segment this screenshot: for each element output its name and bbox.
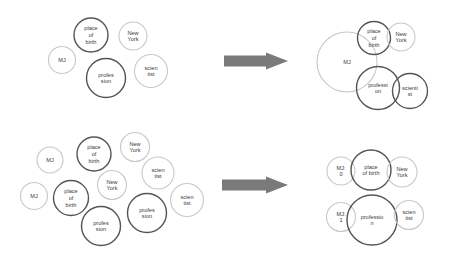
node-label: place <box>87 144 100 150</box>
node-label: place <box>367 28 380 34</box>
node-label: scien <box>144 65 157 71</box>
node-label: st <box>408 91 413 97</box>
node-label: of <box>372 35 377 41</box>
bottom-arrow-icon <box>222 177 288 194</box>
entity-merge-diagram: MJplaceofbirthNewYorkprofessionscientist… <box>0 0 452 261</box>
node-scientist-a: scientist <box>142 157 174 189</box>
diagram-canvas: MJplaceofbirthNewYorkprofessionscientist… <box>0 0 452 261</box>
node-label: of birth <box>362 170 379 176</box>
node-label: York <box>130 147 141 153</box>
node-label: of <box>69 195 74 201</box>
node-place-of-birth-a: placeofbirth <box>77 137 111 171</box>
node-label: scien <box>151 167 164 173</box>
node-label: York <box>107 185 118 191</box>
node-label: profes <box>139 207 155 213</box>
panel-bottom-right: MJ:0placeof birthNewYorkMJ:1professionsc… <box>327 150 424 245</box>
node-label: on <box>375 88 381 94</box>
node-label: 1 <box>339 217 342 223</box>
node-mj-a: MJ <box>37 147 63 173</box>
node-label: scien <box>402 209 415 215</box>
node-scientist: scientist <box>135 55 168 88</box>
node-label: of <box>89 32 94 38</box>
node-new-york: NewYork <box>119 22 147 50</box>
node-label: birth <box>66 202 77 208</box>
node-label: MJ <box>30 193 38 199</box>
node-mj: MJ <box>49 47 76 74</box>
node-label: sion <box>142 213 152 219</box>
node-label: MJ <box>46 157 54 163</box>
node-label: scien <box>180 194 193 200</box>
node-label: scienti <box>402 85 418 91</box>
node-label: tist <box>147 71 155 77</box>
node-label: profes <box>98 72 114 78</box>
panels-layer: MJplaceofbirthNewYorkprofessionscientist… <box>21 18 428 246</box>
node-label: birth <box>369 42 380 48</box>
panel-top-right: MJplaceofbirthNewYorkprofessionscientist <box>317 22 428 110</box>
node-label: birth <box>86 39 97 45</box>
node-label: professio <box>361 214 384 220</box>
node-profession: profession <box>87 59 126 98</box>
node-label: MJ: <box>336 211 345 217</box>
node-label: New <box>395 31 407 37</box>
node-new-york-b: NewYork <box>98 171 127 200</box>
node-label: place <box>364 164 377 170</box>
top-arrow-icon <box>224 53 288 70</box>
node-label: MJ <box>58 57 66 63</box>
node-label: 0 <box>339 171 342 177</box>
node-label: birth <box>89 158 100 164</box>
node-label: MJ <box>343 59 351 65</box>
node-label: of <box>92 151 97 157</box>
node-label: New <box>129 141 141 147</box>
node-label: York <box>128 36 139 42</box>
node-label: York <box>397 172 408 178</box>
node-place-of-birth: placeofbirth <box>74 18 108 52</box>
node-place-of-birth-b: placeofbirth <box>54 181 89 216</box>
panel-bottom-left: MJplaceofbirthNewYorkscientistMJplaceofb… <box>21 133 204 246</box>
node-label: York <box>396 37 407 43</box>
node-label: New <box>127 30 139 36</box>
node-label: New <box>396 166 408 172</box>
node-label: MJ: <box>336 165 345 171</box>
node-label: New <box>106 179 118 185</box>
node-label: place <box>64 188 77 194</box>
node-label: tist <box>183 200 191 206</box>
node-scientist: scientist <box>393 74 428 109</box>
node-label: n <box>370 220 373 226</box>
node-profession-b: profession <box>128 194 167 233</box>
node-label: sion <box>96 226 106 232</box>
panel-top-left: MJplaceofbirthNewYorkprofessionscientist <box>49 18 168 98</box>
node-scientist: scientist <box>395 201 424 230</box>
node-label: tist <box>405 215 413 221</box>
arrows-layer <box>222 53 288 194</box>
node-label: sion <box>101 78 111 84</box>
node-new-york: NewYork <box>387 23 415 51</box>
node-label: professi <box>368 82 388 88</box>
node-profession: profession <box>347 195 397 245</box>
node-mj-b: MJ <box>21 183 48 210</box>
node-label: tist <box>154 173 162 179</box>
node-label: place <box>84 25 97 31</box>
node-scientist-b: scientist <box>171 184 204 217</box>
node-place-of-birth: placeof birth <box>351 150 391 190</box>
node-label: profes <box>93 220 109 226</box>
node-new-york-a: NewYork <box>121 133 150 162</box>
node-profession-a: profession <box>82 207 121 246</box>
